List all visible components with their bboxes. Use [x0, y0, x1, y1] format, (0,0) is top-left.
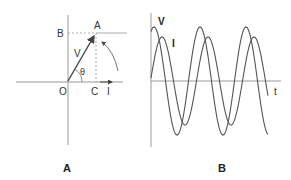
panel-a-phasor: A B V θ O C I A	[16, 15, 127, 174]
label-time-t: t	[274, 86, 277, 97]
panel-a-caption: A	[63, 162, 71, 174]
label-theta: θ	[80, 67, 85, 77]
label-point-b: B	[57, 28, 64, 39]
label-voltage-v: V	[158, 16, 165, 27]
label-point-c: C	[91, 86, 98, 97]
label-origin-o: O	[59, 86, 67, 97]
phasor-diagram-figure: A B V θ O C I A V I t B	[0, 0, 291, 180]
label-current-i: I	[107, 86, 110, 97]
label-vector-v: V	[74, 48, 81, 59]
rotation-arrow	[102, 42, 118, 71]
label-point-a: A	[94, 20, 101, 31]
label-current-i: I	[172, 38, 175, 49]
panel-b-waveforms: V I t B	[151, 13, 281, 174]
panel-b-caption: B	[218, 162, 226, 174]
